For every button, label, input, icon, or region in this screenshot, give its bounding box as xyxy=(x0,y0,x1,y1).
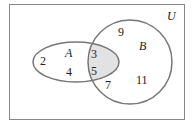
set-a-label: A xyxy=(64,46,73,60)
venn-diagram: U A B 2 4 3 5 9 7 11 xyxy=(0,0,195,126)
set-b-label: B xyxy=(139,39,147,53)
element-11: 11 xyxy=(136,73,148,87)
element-9: 9 xyxy=(118,25,124,39)
element-5: 5 xyxy=(91,64,97,78)
element-7: 7 xyxy=(105,78,111,92)
element-3: 3 xyxy=(91,47,97,61)
universe-label: U xyxy=(167,9,177,23)
element-4: 4 xyxy=(66,65,72,79)
element-2: 2 xyxy=(40,54,46,68)
